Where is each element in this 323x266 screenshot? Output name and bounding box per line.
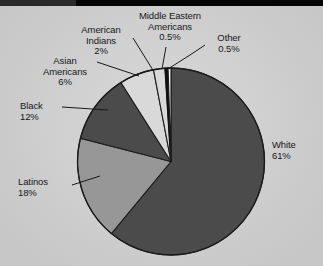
label-middle-eastern-americans-percent: 0.5% <box>131 32 209 43</box>
label-other: Other 0.5% <box>205 33 253 54</box>
leader-line-american-indians <box>133 38 154 71</box>
label-white-name: White <box>272 139 296 150</box>
label-other-name: Other <box>217 32 240 43</box>
label-other-percent: 0.5% <box>205 44 253 55</box>
label-american-indians-percent: 2% <box>70 46 132 57</box>
label-latinos-percent: 18% <box>18 188 70 199</box>
pie-chart-figure: Middle Eastern Americans 0.5% Other 0.5%… <box>0 0 323 266</box>
label-asian-americans-line2: Americans <box>43 66 87 77</box>
leader-line-other <box>170 45 206 68</box>
label-asian-americans: Asian Americans 6% <box>34 56 96 88</box>
label-latinos: Latinos 18% <box>18 177 70 198</box>
label-asian-americans-line1: Asian <box>53 55 76 66</box>
label-middle-eastern-americans-line2: Americans <box>148 21 192 32</box>
label-white: White 61% <box>272 140 318 161</box>
label-black-percent: 12% <box>20 112 70 123</box>
label-black: Black 12% <box>20 101 70 122</box>
leader-line-asian-americans <box>97 62 139 76</box>
label-white-percent: 61% <box>272 151 318 162</box>
pie-slices <box>78 68 265 255</box>
label-american-indians-line2: Indians <box>86 35 116 46</box>
label-middle-eastern-americans: Middle Eastern Americans 0.5% <box>131 11 209 43</box>
label-asian-americans-percent: 6% <box>34 77 96 88</box>
label-middle-eastern-americans-line1: Middle Eastern <box>139 10 201 21</box>
label-american-indians-line1: American <box>81 24 120 35</box>
label-latinos-name: Latinos <box>18 176 48 187</box>
label-american-indians: American Indians 2% <box>70 25 132 57</box>
label-black-name: Black <box>20 100 43 111</box>
leader-line-middle-eastern <box>162 47 166 69</box>
